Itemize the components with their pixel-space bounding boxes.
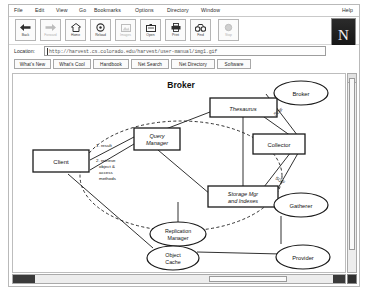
node-gatherer: Gatherer bbox=[274, 193, 328, 217]
svg-text:and Indexes: and Indexes bbox=[228, 198, 258, 204]
page-canvas: Client Query Manager Thesaurus Storage M… bbox=[12, 73, 346, 273]
reload-icon bbox=[96, 23, 105, 32]
stop-label: Stop bbox=[225, 33, 232, 37]
node-client-label: Client bbox=[53, 159, 69, 165]
node-collector-label: Collector bbox=[268, 142, 291, 148]
node-gatherer-label: Gatherer bbox=[290, 203, 313, 209]
toolbar: Back Forward Home Reload Images bbox=[9, 17, 359, 45]
menu-bar: File Edit View Go Bookmarks Options Dire… bbox=[9, 5, 359, 17]
menu-item-view[interactable]: View bbox=[56, 6, 68, 15]
location-bar: Location: http://harvest.cs.colorado.edu… bbox=[9, 45, 359, 58]
menu-item-directory[interactable]: Directory bbox=[167, 6, 189, 15]
directory-button-whats-cool[interactable]: What's Cool bbox=[53, 59, 91, 69]
home-icon bbox=[71, 23, 81, 32]
stop-icon bbox=[224, 23, 233, 32]
forward-button[interactable]: Forward bbox=[40, 19, 61, 41]
content-area: Client Query Manager Thesaurus Storage M… bbox=[9, 71, 359, 286]
back-button[interactable]: Back bbox=[15, 19, 36, 41]
print-button[interactable]: Print bbox=[165, 19, 186, 41]
svg-text:methods: methods bbox=[99, 176, 117, 181]
svg-text:object &: object & bbox=[99, 164, 115, 169]
node-collector: Collector bbox=[253, 134, 305, 154]
svg-text:access: access bbox=[99, 170, 113, 175]
home-button[interactable]: Home bbox=[65, 19, 86, 41]
directory-button-whats-new[interactable]: What's New bbox=[14, 59, 51, 69]
find-label: Find bbox=[197, 33, 204, 37]
find-button[interactable]: Find bbox=[190, 19, 211, 41]
scroll-left-arrow[interactable] bbox=[13, 275, 35, 283]
open-label: Open bbox=[146, 33, 154, 37]
directory-button-handbook[interactable]: Handbook bbox=[93, 59, 129, 69]
images-icon bbox=[121, 23, 131, 32]
scroll-right-arrow[interactable] bbox=[333, 275, 345, 283]
node-thesaurus: Thesaurus bbox=[210, 98, 277, 117]
location-url-text: http://harvest.cs.colorado.edu/harvest/u… bbox=[49, 49, 217, 55]
edge-label-step1: 1. result bbox=[96, 143, 112, 148]
svg-text:Query: Query bbox=[149, 133, 165, 139]
svg-text:Storage Mgr: Storage Mgr bbox=[228, 191, 259, 197]
open-button[interactable]: Open bbox=[140, 19, 161, 41]
diagram-title: Broker bbox=[167, 80, 195, 90]
arrow-right-icon bbox=[45, 23, 56, 32]
images-button[interactable]: Images bbox=[115, 19, 136, 41]
menu-item-go[interactable]: Go bbox=[79, 6, 86, 15]
menu-item-bookmarks[interactable]: Bookmarks bbox=[94, 6, 121, 15]
svg-text:Replication: Replication bbox=[165, 228, 191, 234]
menu-item-window[interactable]: Window bbox=[201, 6, 220, 15]
directory-button-net-search[interactable]: Net Search bbox=[131, 59, 169, 69]
horizontal-scroll-thumb[interactable] bbox=[209, 276, 287, 282]
arrow-left-icon bbox=[20, 23, 31, 32]
svg-text:Object: Object bbox=[165, 252, 181, 258]
menu-item-options[interactable]: Options bbox=[135, 6, 154, 15]
node-object-cache: Object Cache bbox=[147, 246, 199, 270]
node-provider: Provider bbox=[276, 245, 330, 269]
netscape-browser-window: File Edit View Go Bookmarks Options Dire… bbox=[8, 4, 360, 287]
binoculars-icon bbox=[195, 23, 206, 32]
menu-item-file[interactable]: File bbox=[14, 6, 23, 15]
vertical-scrollbar[interactable] bbox=[347, 73, 357, 273]
forward-label: Forward bbox=[44, 33, 56, 37]
horizontal-scrollbar[interactable] bbox=[12, 274, 346, 284]
reload-button[interactable]: Reload bbox=[90, 19, 111, 41]
images-label: Images bbox=[120, 33, 131, 37]
svg-text:Manager: Manager bbox=[168, 235, 189, 241]
text-caret bbox=[47, 48, 48, 55]
back-label: Back bbox=[22, 33, 30, 37]
svg-text:Manager: Manager bbox=[146, 140, 169, 146]
harvest-architecture-diagram: Client Query Manager Thesaurus Storage M… bbox=[13, 74, 346, 273]
node-replication-manager: Replication Manager bbox=[150, 222, 206, 246]
printer-icon bbox=[171, 23, 181, 32]
node-broker-remote: Broker bbox=[274, 81, 328, 105]
node-query-manager: Query Manager bbox=[134, 128, 180, 150]
open-icon bbox=[146, 23, 156, 32]
node-thesaurus-label: Thesaurus bbox=[229, 106, 256, 112]
menu-item-edit[interactable]: Edit bbox=[35, 6, 44, 15]
node-client: Client bbox=[33, 150, 89, 172]
reload-label: Reload bbox=[95, 33, 106, 37]
vertical-scroll-thumb[interactable] bbox=[349, 78, 355, 250]
resize-corner[interactable] bbox=[347, 274, 357, 284]
node-broker-remote-label: Broker bbox=[292, 91, 309, 97]
svg-text:Cache: Cache bbox=[165, 259, 180, 265]
node-storage-manager: Storage Mgr and Indexes bbox=[208, 186, 278, 207]
stop-button[interactable]: Stop bbox=[218, 19, 239, 41]
svg-text:2. retrieve: 2. retrieve bbox=[96, 158, 116, 163]
location-input[interactable]: http://harvest.cs.colorado.edu/harvest/u… bbox=[44, 46, 326, 56]
menu-item-help[interactable]: Help bbox=[342, 6, 353, 15]
print-label: Print bbox=[172, 33, 179, 37]
directory-button-net-directory[interactable]: Net Directory bbox=[171, 59, 215, 69]
edge-label-step2: 2. retrieve object & access methods bbox=[96, 158, 117, 181]
location-label: Location: bbox=[14, 48, 35, 54]
directory-buttons-bar: What's New What's Cool Handbook Net Sear… bbox=[9, 58, 359, 72]
home-label: Home bbox=[71, 33, 80, 37]
directory-button-software[interactable]: Software bbox=[217, 59, 251, 69]
netscape-logo-letter: N bbox=[338, 28, 349, 43]
node-provider-label: Provider bbox=[292, 255, 314, 261]
